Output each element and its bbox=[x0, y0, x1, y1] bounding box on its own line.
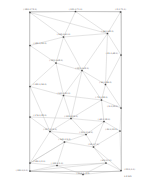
graph-edge bbox=[71, 119, 104, 122]
graph-edge bbox=[30, 87, 64, 96]
graph-edge bbox=[30, 132, 50, 164]
graph-node[interactable] bbox=[81, 70, 83, 72]
graph-node[interactable] bbox=[120, 170, 122, 172]
graph-edge bbox=[104, 122, 120, 132]
graph-edge bbox=[50, 119, 71, 132]
graph-node[interactable] bbox=[56, 165, 58, 167]
graph-edge bbox=[102, 100, 105, 122]
graph-edge bbox=[106, 85, 122, 109]
graph-node[interactable] bbox=[64, 141, 66, 143]
graph-edge bbox=[50, 132, 86, 135]
graph-node[interactable] bbox=[85, 134, 87, 136]
graph-edge bbox=[30, 142, 65, 163]
graph-edge bbox=[50, 132, 65, 143]
graph-node[interactable] bbox=[103, 121, 105, 123]
graph-edge bbox=[50, 96, 64, 132]
node-group bbox=[29, 11, 122, 176]
graph-node[interactable] bbox=[93, 146, 95, 148]
graph-edge bbox=[30, 37, 64, 46]
graph-node[interactable] bbox=[105, 162, 107, 164]
scale-annotation: 1.0 km bbox=[124, 176, 132, 179]
graph-edge bbox=[30, 117, 71, 119]
graph-edge bbox=[82, 71, 102, 101]
graph-edge bbox=[121, 12, 122, 55]
graph-edge bbox=[64, 37, 83, 71]
graph-edge bbox=[57, 163, 106, 166]
graph-edge bbox=[94, 131, 121, 147]
graph-edge bbox=[108, 12, 121, 34]
graph-node[interactable] bbox=[120, 107, 122, 109]
graph-edge bbox=[30, 13, 108, 34]
graph-edge bbox=[30, 46, 56, 64]
graph-edge bbox=[120, 108, 121, 131]
graph-edge bbox=[106, 34, 108, 85]
edge-group bbox=[30, 12, 121, 175]
graph-node[interactable] bbox=[70, 118, 72, 120]
graph-edge bbox=[108, 34, 122, 56]
graph-node[interactable] bbox=[55, 62, 57, 64]
graph-node[interactable] bbox=[63, 36, 65, 38]
graph-node[interactable] bbox=[101, 99, 103, 101]
graph-edge bbox=[65, 135, 87, 143]
graph-edge bbox=[82, 34, 108, 71]
graph-edge bbox=[30, 87, 50, 132]
graph-edge bbox=[65, 142, 94, 147]
graph-edge bbox=[57, 142, 65, 166]
graph-node[interactable] bbox=[29, 12, 31, 14]
graph-edge bbox=[76, 12, 108, 34]
graph-node[interactable] bbox=[29, 45, 31, 47]
graph-edge bbox=[56, 63, 82, 71]
graph-edge bbox=[102, 100, 122, 108]
graph-node[interactable] bbox=[105, 84, 107, 86]
graph-edge bbox=[30, 117, 50, 132]
graph-canvas bbox=[0, 0, 146, 187]
graph-edge bbox=[71, 100, 102, 119]
graph-edge bbox=[83, 163, 106, 175]
graph-edge bbox=[71, 119, 86, 135]
graph-edge bbox=[56, 63, 64, 96]
graph-node[interactable] bbox=[107, 33, 109, 35]
graph-node[interactable] bbox=[63, 95, 65, 97]
graph-node[interactable] bbox=[29, 116, 31, 118]
graph-edge bbox=[106, 55, 122, 85]
graph-edge bbox=[94, 147, 107, 163]
graph-edge bbox=[30, 63, 56, 87]
graph-edge bbox=[64, 96, 102, 101]
graph-edge bbox=[120, 131, 121, 171]
graph-edge bbox=[83, 171, 121, 175]
graph-edge bbox=[56, 37, 64, 63]
graph-edge bbox=[94, 147, 122, 171]
graph-node[interactable] bbox=[29, 170, 31, 172]
graph-node[interactable] bbox=[119, 130, 121, 132]
plot-frame bbox=[30, 12, 122, 172]
graph-node[interactable] bbox=[49, 131, 51, 133]
graph-node[interactable] bbox=[29, 162, 31, 164]
graph-edge bbox=[30, 163, 57, 166]
graph-node[interactable] bbox=[82, 174, 84, 176]
graph-node[interactable] bbox=[75, 11, 77, 13]
graph-edge bbox=[30, 13, 64, 38]
graph-edge bbox=[64, 34, 108, 38]
graph-node[interactable] bbox=[29, 86, 31, 88]
graph-edge bbox=[64, 96, 72, 119]
graph-edge bbox=[102, 85, 106, 101]
graph-edge bbox=[82, 71, 106, 85]
graph-edge bbox=[86, 135, 94, 148]
graph-node[interactable] bbox=[120, 54, 122, 56]
graph-edge bbox=[30, 166, 57, 172]
graph-figure: (-180.0,72.0)(-131.0,71.0)(-2.0,71.0)(-4… bbox=[0, 0, 146, 187]
graph-node[interactable] bbox=[120, 11, 122, 13]
